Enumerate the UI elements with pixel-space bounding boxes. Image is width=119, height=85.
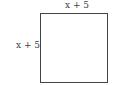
left-side-label: x + 5: [16, 41, 40, 50]
top-side-label: x + 5: [65, 1, 89, 10]
square-shape: [40, 13, 108, 83]
